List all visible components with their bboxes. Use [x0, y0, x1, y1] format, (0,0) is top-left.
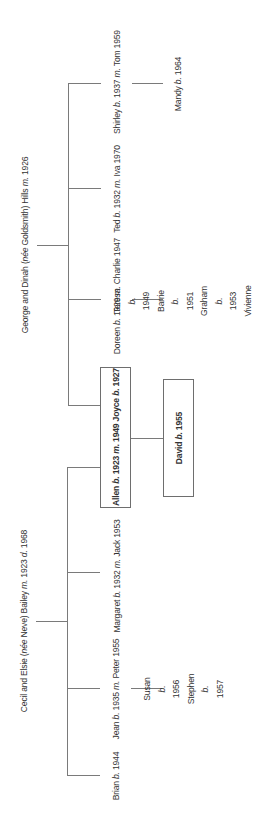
person-graham: Graham b. 1953 [197, 285, 241, 316]
hills-branch-allen [68, 405, 100, 406]
person-susan: Susan b. 1956 [140, 674, 184, 705]
hills-branch-doreen [68, 299, 101, 300]
person-margaret: Margaret b. 1932 m. Jack 1953 [113, 519, 122, 632]
hills-trunk [68, 83, 69, 406]
doreen-children-list: Teresa b. 1949 Barrie b. 1951 Graham b. … [110, 285, 253, 316]
hills-family-title: George and Dinah (née Goldsmith) Hills m… [21, 157, 30, 334]
person-teresa: Teresa b. 1949 [110, 285, 154, 316]
bailey-parent-stub [36, 621, 68, 622]
person-barrie: Barrie b. 1951 [154, 285, 198, 316]
allen-to-david-connector [131, 438, 163, 439]
person-vivienne: Vivienne b. 1960 [241, 285, 254, 316]
person-david: David b. 1955 [175, 412, 184, 464]
hills-branch-shirley [68, 83, 101, 84]
bailey-branch-brian [67, 775, 100, 776]
jean-children-list: Susan b. 1956 Stephen b. 1957 [140, 674, 227, 705]
bailey-trunk [67, 467, 68, 776]
hills-parent-stub [37, 245, 68, 246]
person-jean: Jean b. 1935 m. Peter 1955 [112, 639, 121, 740]
person-allen-joyce: Allen b. 1923 m. 1949 Joyce b. 1927 [112, 368, 121, 506]
hills-branch-ted [68, 188, 101, 189]
person-brian: Brian b. 1944 [112, 752, 121, 801]
person-ted: Ted b. 1932 m. Iva 1970 [113, 145, 122, 233]
person-stephen: Stephen b. 1957 [183, 674, 227, 705]
bailey-branch-margaret [67, 572, 100, 573]
bailey-branch-allen [67, 467, 100, 468]
shirley-to-mandy-connector [132, 83, 163, 84]
person-mandy: Mandy b. 1964 [174, 57, 183, 111]
person-shirley: Shirley b. 1937 m. Tom 1959 [113, 30, 122, 134]
bailey-branch-jean [67, 688, 100, 689]
bailey-family-title: Cecil and Elsie (née Neve) Bailey m. 192… [20, 530, 29, 712]
